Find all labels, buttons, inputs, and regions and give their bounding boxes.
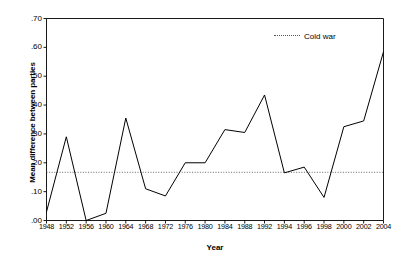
cold-war-legend-swatch-icon — [274, 35, 300, 37]
y-axis-tick-label: .70 — [16, 15, 42, 23]
line-chart: Mean difference between parties .00.10.2… — [0, 0, 405, 267]
y-axis-tick-label: .10 — [16, 188, 42, 196]
y-axis-tick-label: .30 — [16, 130, 42, 138]
x-axis-tick-labels: 1948195219561960196419681972197619801984… — [0, 223, 405, 237]
y-axis-tick-label: .60 — [16, 43, 42, 51]
x-axis-title: Year — [46, 243, 384, 252]
axis-ticks — [44, 19, 384, 224]
legend: Cold war — [274, 30, 336, 42]
legend-label-cold-war: Cold war — [304, 32, 336, 41]
data-series-line — [47, 52, 384, 221]
y-axis-tick-label: .20 — [16, 159, 42, 167]
series-polyline — [47, 52, 384, 221]
plot-frame — [47, 19, 384, 221]
y-axis-tick-label: .40 — [16, 101, 42, 109]
x-axis-tick-label: 2004 — [371, 223, 397, 231]
y-axis-tick-label: .50 — [16, 72, 42, 80]
